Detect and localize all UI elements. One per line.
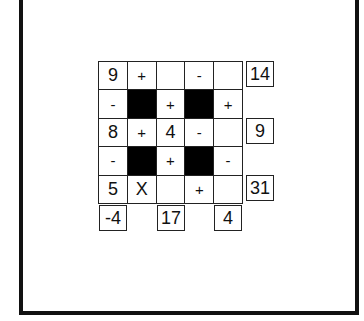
cell-r1-c4: + [214,90,243,118]
col-result-2: 17 [157,205,185,231]
cell-r0-c3: - [185,62,214,90]
row-result-2: 9 [246,118,274,144]
col-result-4: 4 [214,205,242,231]
puzzle-grid: 9 + - - + + 8 + 4 - - + - 5 X + [98,61,243,204]
cell-r0-c2[interactable] [157,62,186,90]
cell-r4-c0: 5 [99,176,128,204]
cell-r4-c3: + [185,176,214,204]
row-result-4: 31 [246,175,274,201]
cell-r3-c4: - [214,147,243,175]
cell-r3-c3-blocked [185,147,214,175]
col-result-0: -4 [99,205,127,231]
cell-r3-c2: + [157,147,186,175]
cell-r1-c2: + [157,90,186,118]
cell-r0-c1: + [128,62,157,90]
cell-r4-c4[interactable] [214,176,243,204]
cell-r3-c0: - [99,147,128,175]
cell-r3-c1-blocked [128,147,157,175]
cell-r1-c0: - [99,90,128,118]
cell-r4-c1: X [128,176,157,204]
cell-r1-c3-blocked [185,90,214,118]
row-result-0: 14 [246,61,274,87]
cell-r0-c4[interactable] [214,62,243,90]
cell-r2-c2: 4 [157,119,186,147]
cell-r2-c4[interactable] [214,119,243,147]
cell-r2-c1: + [128,119,157,147]
cell-r2-c0: 8 [99,119,128,147]
cell-r4-c2[interactable] [157,176,186,204]
cell-r2-c3: - [185,119,214,147]
cell-r0-c0: 9 [99,62,128,90]
cell-r1-c1-blocked [128,90,157,118]
